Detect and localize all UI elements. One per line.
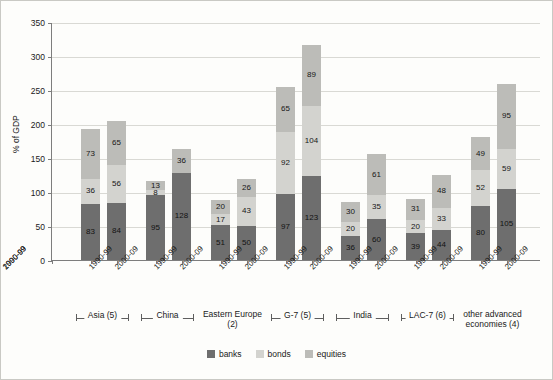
legend-swatch-equities-icon <box>305 350 313 358</box>
group-bracket: G-7 (5) <box>271 314 324 321</box>
bar-value-label: 123 <box>305 214 318 222</box>
stacked-bar[interactable]: 845665 <box>107 121 126 260</box>
bar-segment-banks: 95 <box>146 195 165 260</box>
bar-value-label: 36 <box>346 244 355 252</box>
bar-value-label: 33 <box>437 215 446 223</box>
stacked-bar[interactable]: 1055995 <box>497 84 516 260</box>
bar-segment-bonds: 43 <box>237 197 256 226</box>
y-tick-label: 0 <box>40 256 45 266</box>
bar-value-label: 39 <box>411 243 420 251</box>
bar-segment-bonds: 33 <box>432 208 451 230</box>
bar-segment-equities: 65 <box>107 121 126 165</box>
bar-segment-equities: 26 <box>237 179 256 197</box>
y-tick-label: 150 <box>31 154 45 164</box>
bar-value-label: 59 <box>502 165 511 173</box>
bar-value-label: 30 <box>346 208 355 216</box>
stacked-bar[interactable]: 12310489 <box>302 45 321 260</box>
group-bracket: Asia (5) <box>76 314 129 321</box>
bar-value-label: 31 <box>411 205 420 213</box>
bar-segment-equities: 73 <box>81 129 100 179</box>
legend-label: banks <box>219 349 242 359</box>
y-tick-label: 250 <box>31 86 45 96</box>
bar-value-label: 20 <box>346 225 355 233</box>
bar-value-label: 61 <box>372 171 381 179</box>
bar-segment-equities: 49 <box>471 137 490 170</box>
bar-value-label: 128 <box>175 212 188 220</box>
bar-segment-bonds: 52 <box>471 170 490 205</box>
group-label: Eastern Europe (2) <box>198 309 268 329</box>
bar-segment-equities: 95 <box>497 84 516 149</box>
bar-value-label: 26 <box>242 184 251 192</box>
legend-item-equities[interactable]: equities <box>305 349 346 359</box>
bar-value-label: 97 <box>281 223 290 231</box>
x-tick-mark <box>52 260 53 264</box>
bar-value-label: 95 <box>151 224 160 232</box>
bar-value-label: 51 <box>216 239 225 247</box>
bar-value-label: 105 <box>500 220 513 228</box>
bar-segment-bonds: 92 <box>276 132 295 195</box>
bar-segment-bonds: 59 <box>497 149 516 189</box>
bar-value-label: 83 <box>86 228 95 236</box>
bar-segment-bonds: 20 <box>341 222 360 236</box>
bar-value-label: 13 <box>151 182 160 190</box>
y-tick-label: 100 <box>31 188 45 198</box>
stacked-bar[interactable]: 833673 <box>81 129 100 260</box>
bar-segment-bonds: 17 <box>211 214 230 226</box>
group-bracket: Eastern Europe (2) <box>206 314 259 321</box>
group-bracket: China <box>141 314 194 321</box>
bar-value-label: 17 <box>216 216 225 224</box>
bar-value-label: 56 <box>112 180 121 188</box>
stacked-bar[interactable]: 12836 <box>172 149 191 261</box>
bar-value-label: 95 <box>502 112 511 120</box>
bar-segment-equities: 31 <box>406 199 425 220</box>
bar-segment-bonds: 56 <box>107 165 126 203</box>
bar-segment-equities: 36 <box>172 149 191 173</box>
bar-value-label: 73 <box>86 150 95 158</box>
bar-value-label: 50 <box>242 239 251 247</box>
bar-value-label: 35 <box>372 203 381 211</box>
group-label: India <box>349 310 375 320</box>
bar-series-container: 8336738456659581312836511720504326979265… <box>52 23 540 260</box>
stacked-bar[interactable]: 95813 <box>146 181 165 260</box>
group-label: China <box>152 310 182 320</box>
bar-segment-bonds: 8 <box>146 190 165 195</box>
stacked-bar[interactable]: 392031 <box>406 199 425 260</box>
stacked-bar[interactable]: 603561 <box>367 154 386 260</box>
bar-value-label: 20 <box>411 223 420 231</box>
y-tick-label: 200 <box>31 120 45 130</box>
stacked-bar[interactable]: 362030 <box>341 202 360 260</box>
legend-label: bonds <box>268 349 291 359</box>
y-axis-title: % of GDP <box>11 115 21 153</box>
x-tick-label: 2000-09 <box>1 244 28 271</box>
y-tick-label: 300 <box>31 52 45 62</box>
bar-value-label: 43 <box>242 207 251 215</box>
legend-item-bonds[interactable]: bonds <box>256 349 291 359</box>
group-bracket: LAC-7 (6) <box>401 314 454 321</box>
chart-figure: % of GDP 050100150200250300350 833673845… <box>1 1 552 379</box>
bar-segment-bonds: 20 <box>406 220 425 234</box>
bar-segment-bonds: 104 <box>302 106 321 177</box>
legend-item-banks[interactable]: banks <box>207 349 242 359</box>
bar-segment-equities: 65 <box>276 87 295 131</box>
legend-label: equities <box>317 349 346 359</box>
bar-segment-bonds: 36 <box>81 179 100 203</box>
bar-segment-bonds: 35 <box>367 195 386 219</box>
plot-area: 050100150200250300350 833673845665958131… <box>51 23 540 261</box>
bar-value-label: 48 <box>437 187 446 195</box>
bar-value-label: 89 <box>307 71 316 79</box>
bar-segment-equities: 20 <box>211 200 230 214</box>
stacked-bar[interactable]: 511720 <box>211 200 230 260</box>
bar-value-label: 80 <box>476 229 485 237</box>
bar-value-label: 49 <box>476 150 485 158</box>
group-label: Asia (5) <box>84 310 121 320</box>
bar-value-label: 52 <box>476 184 485 192</box>
stacked-bar[interactable]: 979265 <box>276 87 295 260</box>
y-tick-label: 350 <box>31 18 45 28</box>
bar-segment-equities: 48 <box>432 175 451 208</box>
bar-value-label: 65 <box>281 105 290 113</box>
stacked-bar[interactable]: 805249 <box>471 137 490 260</box>
group-label: G-7 (5) <box>280 310 315 320</box>
bar-value-label: 104 <box>305 137 318 145</box>
group-label: other advanced economies (4) <box>458 309 528 329</box>
bar-segment-banks: 80 <box>471 206 490 260</box>
